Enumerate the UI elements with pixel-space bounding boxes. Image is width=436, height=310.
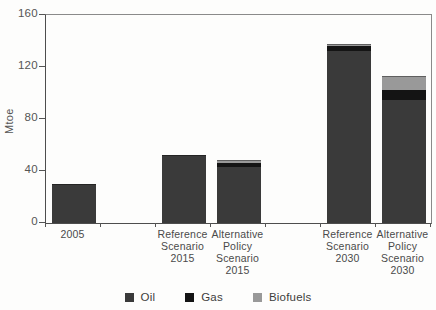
x-tick-mark xyxy=(210,223,211,227)
stacked-bar-chart: Mtoe OilGasBiofuels 040801201602005Refer… xyxy=(0,0,436,310)
legend-item-gas: Gas xyxy=(185,291,223,303)
legend-item-oil: Oil xyxy=(125,291,156,303)
legend-label: Gas xyxy=(201,291,223,303)
y-tick-mark xyxy=(39,118,45,119)
x-tick-mark xyxy=(375,223,376,227)
bar-segment-biofuels xyxy=(382,76,426,90)
y-tick-mark xyxy=(39,14,45,15)
legend-swatch-oil xyxy=(125,293,134,302)
bar-alternative-policy-scenario-2030 xyxy=(382,76,426,223)
y-tick-label: 80 xyxy=(0,111,38,123)
legend-label: Oil xyxy=(141,291,156,303)
x-axis-label-alternative-policy-scenario-2015: Alternative Policy Scenario 2015 xyxy=(196,228,280,276)
x-tick-mark xyxy=(320,223,321,227)
y-tick-label: 40 xyxy=(0,163,38,175)
legend-item-biofuels: Biofuels xyxy=(253,291,312,303)
x-axis-label-2005: 2005 xyxy=(31,228,115,240)
bar-segment-oil xyxy=(327,51,371,223)
y-tick-label: 120 xyxy=(0,59,38,71)
bar-reference-scenario-2015 xyxy=(162,155,206,223)
bar-segment-oil xyxy=(382,100,426,223)
bar-segment-oil xyxy=(217,167,261,223)
legend-swatch-gas xyxy=(185,293,194,302)
bar-alternative-policy-scenario-2015 xyxy=(217,160,261,223)
bar-2005 xyxy=(52,184,96,223)
y-tick-mark xyxy=(39,170,45,171)
x-axis-label-alternative-policy-scenario-2030: Alternative Policy Scenario 2030 xyxy=(361,228,436,276)
bar-segment-oil xyxy=(52,184,96,223)
x-tick-mark xyxy=(265,223,266,227)
legend-swatch-biofuels xyxy=(253,293,262,302)
x-tick-mark xyxy=(100,223,101,227)
bar-reference-scenario-2030 xyxy=(327,44,371,223)
x-tick-mark xyxy=(155,223,156,227)
y-tick-label: 160 xyxy=(0,7,38,19)
y-tick-mark xyxy=(39,66,45,67)
x-tick-mark xyxy=(430,223,431,227)
plot-area xyxy=(45,14,432,224)
legend-label: Biofuels xyxy=(269,291,312,303)
x-tick-mark xyxy=(45,223,46,227)
bar-segment-oil xyxy=(162,155,206,223)
y-tick-label: 0 xyxy=(0,215,38,227)
bar-segment-gas xyxy=(382,90,426,100)
legend: OilGasBiofuels xyxy=(0,291,436,303)
